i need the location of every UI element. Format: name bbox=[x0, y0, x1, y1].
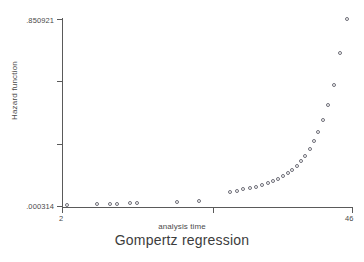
data-point bbox=[115, 202, 119, 206]
chart-title: Gompertz regression bbox=[0, 232, 364, 248]
data-point bbox=[308, 147, 312, 151]
data-point bbox=[65, 203, 69, 207]
data-point bbox=[228, 190, 232, 194]
data-point bbox=[281, 174, 285, 178]
data-point bbox=[316, 130, 320, 134]
data-point bbox=[276, 177, 280, 181]
data-point bbox=[286, 171, 290, 175]
data-point bbox=[338, 51, 342, 55]
data-point bbox=[332, 83, 336, 87]
data-point bbox=[175, 200, 179, 204]
data-point bbox=[290, 168, 294, 172]
x-axis-tick bbox=[352, 208, 353, 213]
data-point bbox=[241, 187, 245, 191]
data-point bbox=[260, 183, 264, 187]
data-point bbox=[266, 181, 270, 185]
y-axis-tick bbox=[57, 206, 62, 207]
data-point bbox=[108, 202, 112, 206]
data-point bbox=[303, 154, 307, 158]
x-axis-line bbox=[62, 207, 353, 208]
x-axis-tick bbox=[213, 208, 214, 213]
y-axis-line bbox=[62, 18, 63, 208]
data-point bbox=[326, 103, 330, 107]
data-point bbox=[248, 186, 252, 190]
y-axis-tick bbox=[57, 144, 62, 145]
y-axis-title: Hazard function bbox=[10, 43, 19, 139]
data-point bbox=[128, 201, 132, 205]
x-axis-tick bbox=[62, 208, 63, 213]
data-point bbox=[235, 189, 239, 193]
data-point bbox=[271, 179, 275, 183]
x-axis-title: analysis time bbox=[0, 222, 364, 231]
data-point bbox=[197, 199, 201, 203]
data-point bbox=[254, 185, 258, 189]
y-axis-tick-label-max: .850921 bbox=[26, 16, 54, 25]
y-axis-tick bbox=[57, 19, 62, 20]
data-point bbox=[95, 202, 99, 206]
data-point bbox=[299, 159, 303, 163]
y-axis-tick bbox=[57, 81, 62, 82]
chart-canvas: .850921 .000314 2 46 Hazard function ana… bbox=[0, 0, 364, 262]
y-axis-tick-label-min: .000314 bbox=[26, 202, 54, 211]
data-point bbox=[295, 164, 299, 168]
data-point bbox=[345, 17, 349, 21]
data-point bbox=[135, 201, 139, 205]
data-point bbox=[321, 118, 325, 122]
data-point bbox=[312, 139, 316, 143]
